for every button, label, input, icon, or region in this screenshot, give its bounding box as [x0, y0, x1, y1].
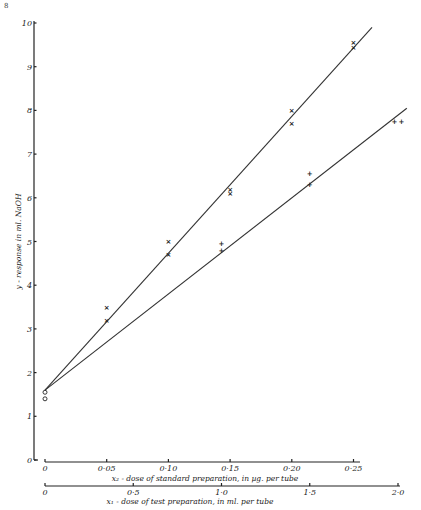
data-point-test: +: [392, 118, 398, 126]
y-tick-label: 5: [27, 238, 32, 247]
x-axis-test-title: x₁ - dose of test preparation, in ml. pe…: [107, 497, 274, 506]
x2-tick-label: 0·20: [283, 464, 301, 473]
data-points: ××××××××××++++++: [43, 39, 405, 401]
page-corner-mark: 8: [4, 2, 8, 10]
y-tick-label: 0: [27, 456, 32, 465]
data-point-standard: ×: [227, 190, 233, 198]
x2-tick-label: 0·10: [159, 464, 177, 473]
y-tick-label: 2: [26, 369, 32, 378]
x-axis-test: 00·51·01·52·0: [42, 483, 404, 497]
x1-tick-label: 0: [42, 488, 47, 497]
data-point-standard: ×: [165, 238, 171, 246]
y-tick-label: 4: [26, 281, 32, 290]
x2-tick-label: 0·25: [345, 464, 363, 473]
x2-tick-label: 0·05: [98, 464, 116, 473]
data-point-standard: ×: [104, 317, 110, 325]
x1-tick-label: 2·0: [391, 488, 405, 497]
y-axis: 012345678910: [22, 19, 38, 465]
x2-tick-label: 0·15: [221, 464, 239, 473]
x-axis-standard-title: x₂ - dose of standard preparation, in µg…: [112, 474, 299, 483]
data-point-test: +: [219, 247, 225, 255]
y-tick-label: 10: [22, 19, 32, 28]
y-tick-label: 8: [27, 106, 32, 115]
x1-tick-label: 1·5: [303, 488, 316, 497]
data-point-standard: ×: [289, 107, 295, 115]
data-point-test: +: [307, 181, 313, 189]
y-tick-label: 7: [27, 150, 33, 159]
data-point-blank: [43, 390, 47, 394]
x2-tick-label: 0: [42, 464, 47, 473]
data-point-standard: ×: [351, 44, 357, 52]
fit-line-test-preparation: [45, 108, 407, 390]
x1-tick-label: 0·5: [127, 488, 140, 497]
y-axis-title: y - response in ml. NaOH: [14, 193, 23, 290]
data-point-test: +: [307, 170, 313, 178]
y-tick-label: 3: [27, 325, 32, 334]
y-tick-label: 9: [27, 63, 32, 72]
fit-lines: [45, 27, 407, 390]
x1-tick-label: 1·0: [215, 488, 228, 497]
fit-line-standard-preparation: [45, 27, 372, 390]
data-point-standard: ×: [104, 304, 110, 312]
x-axis-standard: 00·050·100·150·200·25: [42, 459, 362, 473]
data-point-standard: ×: [165, 251, 171, 259]
y-tick-label: 1: [27, 412, 32, 421]
data-point-blank: [43, 397, 47, 401]
y-tick-label: 6: [27, 194, 32, 203]
data-point-test: +: [399, 118, 405, 126]
chart: 8 012345678910 00·050·100·150·200·25 00·…: [0, 0, 421, 510]
data-point-standard: ×: [289, 120, 295, 128]
